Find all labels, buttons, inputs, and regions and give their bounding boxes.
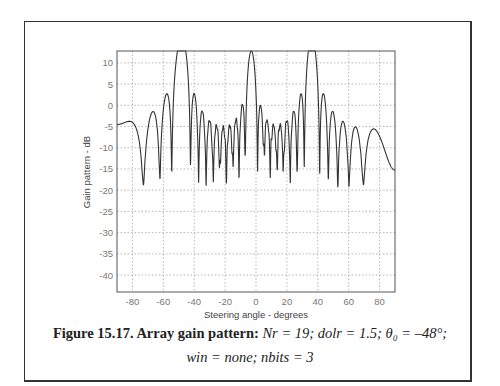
- svg-text:-20: -20: [99, 185, 113, 196]
- svg-text:-40: -40: [187, 296, 201, 307]
- svg-text:5: 5: [108, 79, 113, 90]
- svg-text:-20: -20: [218, 296, 232, 307]
- x-axis-label: Steering angle - degrees: [204, 309, 308, 320]
- svg-text:40: 40: [312, 296, 323, 307]
- axis-tick-labels: -80-60-40-200204060801050-5-10-15-20-25-…: [99, 57, 385, 307]
- y-axis-label: Gain pattern - dB: [81, 136, 92, 208]
- svg-text:60: 60: [343, 296, 354, 307]
- caption-params-1: Nr = 19; dolr = 1.5; θ₀ = –48°;: [262, 325, 447, 341]
- svg-text:10: 10: [102, 57, 113, 68]
- svg-text:-80: -80: [126, 296, 140, 307]
- figure-caption-line-2: win = none; nbits = 3: [0, 349, 500, 366]
- svg-text:0: 0: [253, 296, 258, 307]
- svg-text:-25: -25: [99, 206, 113, 217]
- svg-text:0: 0: [108, 100, 113, 111]
- figure-caption-line-1: Figure 15.17. Array gain pattern: Nr = 1…: [0, 325, 500, 342]
- svg-text:-15: -15: [99, 163, 113, 174]
- svg-text:80: 80: [374, 296, 385, 307]
- figure-label: Figure 15.17. Array gain pattern:: [53, 325, 259, 341]
- svg-text:-10: -10: [99, 142, 113, 153]
- svg-text:-30: -30: [99, 227, 113, 238]
- svg-text:-60: -60: [156, 296, 170, 307]
- svg-text:-5: -5: [105, 121, 113, 132]
- svg-text:-35: -35: [99, 248, 113, 259]
- svg-text:-40: -40: [99, 270, 113, 281]
- svg-text:20: 20: [282, 296, 293, 307]
